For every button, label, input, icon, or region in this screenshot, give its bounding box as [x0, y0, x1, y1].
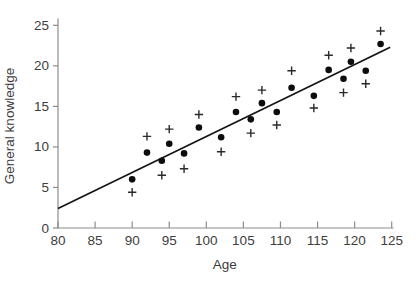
scatter-point-dot: [340, 76, 347, 83]
scatter-point-dot: [181, 150, 188, 157]
scatter-point-plus: [128, 188, 136, 196]
scatter-point-dot: [196, 124, 203, 131]
x-tick-label: 80: [50, 233, 65, 248]
scatter-point-plus: [217, 148, 225, 156]
scatter-point-plus: [376, 27, 384, 35]
scatter-point-plus: [258, 86, 266, 94]
regression-line: [58, 47, 390, 208]
scatter-point-dot: [273, 109, 280, 116]
scatter-point-dot: [311, 93, 318, 100]
scatter-point-dot: [129, 176, 136, 183]
x-tick-label: 110: [270, 233, 292, 248]
scatter-point-plus: [232, 92, 240, 100]
scatter-point-plus: [362, 79, 370, 87]
scatter-point-plus: [165, 125, 173, 133]
x-axis-title: Age: [213, 257, 237, 272]
scatter-point-plus: [310, 104, 318, 112]
scatter-point-dot: [288, 84, 295, 91]
scatter-point-plus: [287, 67, 295, 75]
scatter-point-dot: [325, 67, 332, 74]
x-tick-label: 120: [343, 233, 366, 248]
scatter-point-plus: [273, 121, 281, 129]
x-tick-label: 100: [195, 233, 218, 248]
x-tick-label: 125: [380, 233, 403, 248]
y-tick-label: 0: [41, 221, 49, 236]
scatter-point-plus: [143, 132, 151, 140]
scatter-point-plus: [180, 165, 188, 173]
scatter-point-dot: [248, 116, 255, 123]
scatter-point-dot: [362, 67, 369, 74]
scatter-point-dot: [259, 100, 266, 107]
scatter-point-plus: [324, 51, 332, 59]
scatter-point-plus: [247, 129, 255, 137]
scatter-point-plus: [347, 44, 355, 52]
x-tick-label: 105: [232, 233, 255, 248]
scatter-point-dot: [233, 109, 240, 116]
scatter-point-plus: [339, 88, 347, 96]
y-tick-label: 20: [34, 58, 49, 73]
scatter-point-plus: [158, 171, 166, 179]
scatter-chart: 051015202580859095100105110115120125AgeG…: [0, 0, 416, 282]
y-tick-label: 15: [34, 99, 49, 114]
x-tick-label: 115: [307, 233, 329, 248]
scatter-point-dot: [218, 134, 225, 141]
scatter-plot-figure: 051015202580859095100105110115120125AgeG…: [0, 0, 416, 282]
y-tick-label: 25: [34, 18, 49, 33]
x-tick-label: 85: [88, 233, 103, 248]
x-tick-label: 90: [125, 233, 140, 248]
scatter-point-dot: [144, 149, 151, 156]
scatter-point-dot: [377, 41, 384, 48]
y-axis-title: General knowledge: [2, 68, 17, 184]
scatter-point-dot: [166, 140, 173, 147]
y-tick-label: 10: [34, 139, 49, 154]
scatter-point-dot: [159, 157, 166, 164]
x-tick-label: 95: [162, 233, 177, 248]
scatter-point-plus: [195, 110, 203, 118]
y-tick-label: 5: [41, 180, 49, 195]
scatter-point-dot: [348, 58, 355, 65]
